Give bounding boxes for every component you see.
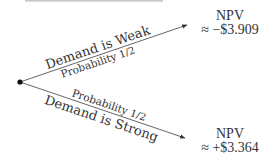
outcome-title-weak: NPV [190,9,270,22]
outcome-value-strong: ≈ +$3.364 [188,141,272,154]
outcome-weak: NPV ≈ −$3.909 [190,9,270,36]
root-node [17,79,22,84]
outcome-strong: NPV ≈ +$3.364 [188,127,272,154]
outcome-value-weak: ≈ −$3.909 [190,23,270,36]
outcome-title-strong: NPV [188,127,272,140]
